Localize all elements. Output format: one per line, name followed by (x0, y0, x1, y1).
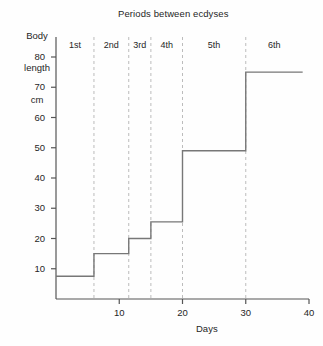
ecdysis-divider-group (94, 37, 246, 299)
axes-group (51, 37, 309, 304)
chart-figure: Periods between ecdyses Body length cm D… (0, 0, 323, 346)
body-length-step-line (56, 72, 303, 276)
plot-area (0, 0, 323, 346)
x-tick-marks (119, 299, 309, 304)
y-tick-marks (51, 57, 56, 269)
